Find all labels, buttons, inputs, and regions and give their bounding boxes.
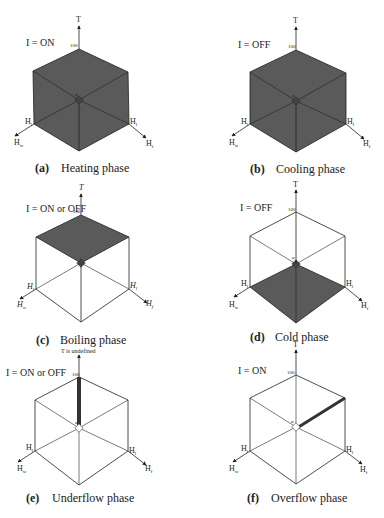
corner-left-label: Hl xyxy=(241,117,249,127)
panel-caption: Cold phase xyxy=(275,330,329,344)
condition-label: I = OFF xyxy=(240,202,273,213)
panel-letter: (f) xyxy=(247,491,259,505)
panel-a: T 100 α I = ON Hl Hl Hw Hf (a) Heating p… xyxy=(14,15,154,175)
panel-caption: Cooling phase xyxy=(276,162,345,176)
shaded-hf-edge xyxy=(297,398,345,428)
panel-caption: Heating phase xyxy=(61,161,129,175)
panel-letter: (c) xyxy=(36,333,49,347)
tick-100-label: 100 xyxy=(287,370,295,375)
panel-letter: (e) xyxy=(26,491,39,505)
origin-label: α xyxy=(292,93,295,98)
panel-letter: (a) xyxy=(35,161,49,175)
hf-axis xyxy=(129,124,146,138)
hw-label: Hw xyxy=(17,464,27,474)
shaded-top-face xyxy=(36,215,129,263)
hf-axis xyxy=(345,287,362,301)
hf-axis xyxy=(129,289,147,303)
hw-label: Hw xyxy=(16,300,27,310)
hf-label: Hf xyxy=(363,139,371,149)
corner-right-label: Hl xyxy=(129,281,138,291)
hf-label: Hf xyxy=(145,464,153,474)
condition-label: I = ON or OFF xyxy=(26,203,87,214)
tick-100-label: 100 xyxy=(288,44,296,49)
panel-f: T 100 α I = ON Hl Hl Hw Hf (f) Overflow … xyxy=(229,340,368,505)
panel-b: T 100 α I = OFF Hl Hl Hw Hf (b) Cooling … xyxy=(229,16,371,176)
corner-left-label: Hl xyxy=(241,279,249,289)
panel-c: T 100 I = ON or OFF Hl Hl Hw Hf (c) Boil… xyxy=(16,183,154,347)
panel-caption: Overflow phase xyxy=(271,491,347,505)
tick-100-label: 100 xyxy=(288,207,296,212)
hw-label: Hw xyxy=(14,138,24,148)
tick-100-label: 100 xyxy=(72,372,80,377)
panel-letter: (b) xyxy=(250,162,265,176)
panel-letter: (d) xyxy=(250,330,265,344)
corner-left-label: Hl xyxy=(26,282,35,292)
tick-100-label: 100 xyxy=(70,43,78,48)
phase-diagram-figure: T 100 α I = ON Hl Hl Hw Hf (a) Heating p… xyxy=(0,0,384,518)
hf-axis xyxy=(346,124,364,139)
corner-left-label: Hl xyxy=(26,443,34,453)
corner-right-label: Hl xyxy=(346,279,354,289)
origin-label: α xyxy=(292,255,295,260)
hw-label: Hw xyxy=(229,464,239,474)
t-axis-label: T xyxy=(79,183,84,192)
condition-label: I = OFF xyxy=(238,39,271,50)
panel-e: T is undefined 100 α I = ON or OFF Hl Hl… xyxy=(6,348,153,505)
hf-label: Hf xyxy=(146,139,154,149)
hf-label: Hf xyxy=(360,465,368,475)
t-axis-label: T xyxy=(76,15,81,24)
corner-left-label: Hl xyxy=(25,117,33,127)
panel-d: T 100 α I = OFF Hl Hl Hw Hf (d) Cold pha… xyxy=(229,180,369,344)
condition-label: I = ON or OFF xyxy=(6,367,67,378)
shaded-bottom-face xyxy=(250,264,345,323)
corner-right-label: Hl xyxy=(347,117,355,127)
corner-right-label: Hl xyxy=(130,117,138,127)
origin-label: α xyxy=(75,420,78,425)
hw-label: Hw xyxy=(229,138,239,148)
condition-label: I = ON xyxy=(238,365,266,376)
t-axis-label: T xyxy=(293,180,298,189)
corner-right-label: Hl xyxy=(346,445,354,455)
panel-caption: Underflow phase xyxy=(52,491,134,505)
t-axis-label: T is undefined xyxy=(61,348,96,354)
condition-label: I = ON xyxy=(26,37,54,48)
corner-right-label: Hl xyxy=(129,446,137,456)
origin-label: α xyxy=(75,92,78,97)
panel-caption: Boiling phase xyxy=(60,333,126,347)
hf-label: Hf xyxy=(145,299,154,309)
corner-left-label: Hl xyxy=(241,444,249,454)
hf-label: Hf xyxy=(361,301,369,311)
t-axis-label: T xyxy=(293,16,298,25)
t-axis-label: T xyxy=(293,340,298,349)
shaded-t-edge xyxy=(77,377,81,426)
origin-label: α xyxy=(291,419,294,424)
hw-label: Hw xyxy=(229,300,239,310)
